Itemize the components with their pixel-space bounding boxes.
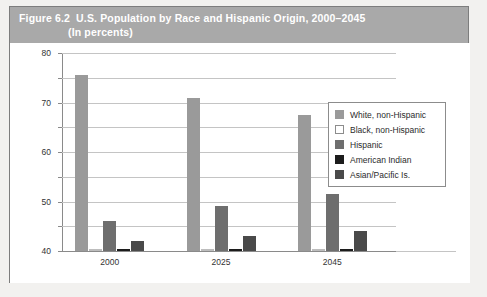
bar	[326, 194, 339, 251]
y-tick-label: 50	[42, 197, 51, 207]
legend-item[interactable]: Asian/Pacific Is.	[335, 167, 440, 182]
legend-swatch-icon	[335, 155, 344, 164]
figure-title-line-1: Figure 6.2U.S. Population by Race and Hi…	[19, 11, 468, 25]
bar-group-2000	[75, 53, 144, 251]
bar	[89, 249, 102, 251]
y-tick-label: 70	[42, 98, 51, 108]
legend-item-label: Asian/Pacific Is.	[350, 170, 410, 180]
legend-item-label: White, non-Hispanic	[350, 110, 426, 120]
x-axis-line	[62, 251, 396, 252]
bar	[229, 249, 242, 251]
bar	[243, 236, 256, 251]
bar-group-2025	[187, 53, 256, 251]
bar	[312, 249, 325, 251]
y-tick-mark: 0	[58, 251, 62, 252]
legend-item[interactable]: Hispanic	[335, 137, 440, 152]
bar	[298, 115, 311, 251]
legend-swatch-icon	[335, 140, 344, 149]
bar	[201, 249, 214, 251]
y-tick-mark: 20	[58, 202, 62, 203]
legend-item[interactable]: American Indian	[335, 152, 440, 167]
figure-number: Figure 6.2	[19, 12, 70, 24]
chart-plot-wrapper: 01020304050607080200020252045 White, non…	[10, 43, 470, 283]
legend-item[interactable]: White, non-Hispanic	[335, 107, 440, 122]
bar	[117, 249, 130, 251]
legend-item-label: Hispanic	[350, 140, 383, 150]
x-axis-line-extension	[396, 251, 456, 252]
y-tick-mark: 30	[58, 177, 62, 178]
y-tick-mark: 40	[58, 152, 62, 153]
y-tick-label: 80	[42, 48, 51, 58]
figure-root: Figure 6.2U.S. Population by Race and Hi…	[0, 0, 487, 297]
legend-item-label: American Indian	[350, 155, 411, 165]
figure-title-banner: Figure 6.2U.S. Population by Race and Hi…	[10, 7, 468, 43]
legend-swatch-icon	[335, 125, 344, 134]
y-tick-label: 60	[42, 147, 51, 157]
bar	[215, 206, 228, 251]
y-tick-mark: 80	[58, 53, 62, 54]
x-tick-label: 2025	[212, 257, 231, 267]
legend-item-label: Black, non-Hispanic	[350, 125, 425, 135]
bar	[340, 249, 353, 251]
legend-swatch-icon	[335, 170, 344, 179]
bar	[75, 75, 88, 251]
page-title: U.S. Population by Race and Hispanic Ori…	[76, 12, 365, 24]
y-tick-mark: 60	[58, 103, 62, 104]
bar	[103, 221, 116, 251]
bar	[354, 231, 367, 251]
figure-subtitle: (In percents)	[19, 25, 468, 39]
legend-item[interactable]: Black, non-Hispanic	[335, 122, 440, 137]
x-tick-label: 2000	[100, 257, 119, 267]
y-tick-label: 40	[42, 246, 51, 256]
figure-card: Figure 6.2U.S. Population by Race and Hi…	[9, 6, 469, 283]
chart-legend: White, non-HispanicBlack, non-HispanicHi…	[328, 102, 446, 187]
y-tick-mark: 10	[58, 226, 62, 227]
x-tick-label: 2045	[323, 257, 342, 267]
y-tick-mark: 50	[58, 127, 62, 128]
bar	[187, 98, 200, 251]
y-tick-mark: 70	[58, 78, 62, 79]
legend-swatch-icon	[335, 110, 344, 119]
bar	[131, 241, 144, 251]
